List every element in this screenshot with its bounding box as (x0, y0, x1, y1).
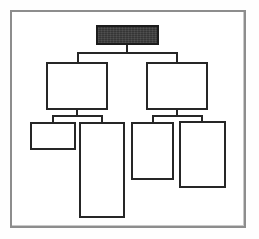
diagram-node-level2-d-label (181, 123, 224, 127)
diagram-node-level2-a-label (32, 124, 74, 128)
diagram-node-level2-a[interactable] (30, 122, 76, 150)
diagram-node-level1-left[interactable] (46, 62, 108, 110)
diagram-node-level2-b[interactable] (79, 122, 125, 218)
diagram-node-root-label (98, 27, 157, 31)
diagram-canvas (0, 0, 259, 239)
connector-node2-bus (152, 115, 203, 117)
diagram-node-root[interactable] (96, 25, 159, 45)
diagram-node-level2-b-label (81, 124, 123, 128)
diagram-node-level1-right-label (148, 64, 206, 68)
diagram-node-level1-right[interactable] (146, 62, 208, 110)
diagram-node-level2-d[interactable] (179, 121, 226, 188)
diagram-node-level1-left-label (48, 64, 106, 68)
diagram-node-level2-c[interactable] (131, 122, 174, 180)
diagram-node-level2-c-label (133, 124, 172, 128)
connector-node1-bus (52, 115, 103, 117)
connector-level1-bus (77, 52, 178, 54)
